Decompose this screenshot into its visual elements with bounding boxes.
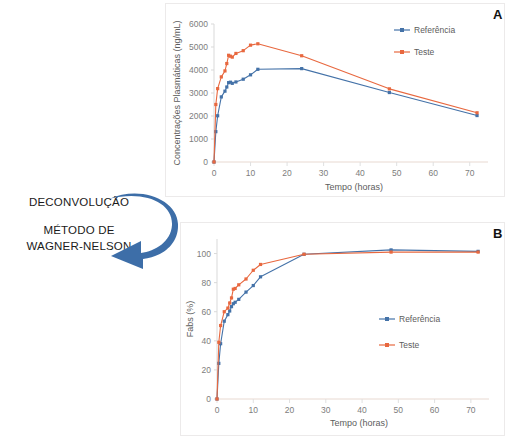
data-point bbox=[225, 62, 228, 65]
legend-label-1: Teste bbox=[399, 340, 420, 350]
legend-marker-1 bbox=[400, 50, 404, 54]
data-point bbox=[230, 296, 233, 299]
x-tick-label: 60 bbox=[428, 168, 438, 178]
data-point bbox=[212, 160, 215, 163]
data-point bbox=[389, 250, 392, 253]
data-point bbox=[219, 324, 222, 327]
legend-marker-0 bbox=[400, 28, 404, 32]
panel-letter-a: A bbox=[493, 7, 502, 22]
data-point bbox=[244, 277, 247, 280]
y-axis-label-a: Concentrações Plasmáticas (ng/mL) bbox=[172, 20, 182, 165]
plot-area-a: 0100020003000400050006000 01020304050607… bbox=[166, 4, 504, 196]
legend-a: ReferênciaTeste bbox=[394, 25, 455, 57]
data-point bbox=[223, 310, 226, 313]
legend-marker-0 bbox=[385, 317, 389, 321]
x-tick-label: 70 bbox=[466, 405, 476, 415]
data-point bbox=[249, 44, 252, 47]
data-point bbox=[234, 287, 237, 290]
data-point bbox=[256, 68, 259, 71]
data-point bbox=[388, 91, 391, 94]
data-point bbox=[226, 306, 229, 309]
y-tick-label: 5000 bbox=[189, 42, 208, 52]
x-axis-label-b: Tempo (horas) bbox=[330, 418, 388, 428]
y-tick-label: 20 bbox=[202, 365, 212, 375]
x-tick-label: 40 bbox=[355, 168, 365, 178]
legend-label-1: Teste bbox=[414, 47, 435, 57]
data-point bbox=[234, 52, 237, 55]
series-line-1 bbox=[214, 44, 477, 162]
data-point bbox=[477, 250, 480, 253]
y-tick-label: 40 bbox=[202, 336, 212, 346]
data-point bbox=[242, 78, 245, 81]
data-point bbox=[475, 111, 478, 114]
series-line-1 bbox=[217, 252, 478, 399]
data-point bbox=[259, 275, 262, 278]
x-tick-label: 10 bbox=[246, 168, 256, 178]
y-tick-label: 0 bbox=[206, 394, 211, 404]
y-axis-label-b: Fabs (%) bbox=[185, 301, 195, 338]
data-point bbox=[300, 54, 303, 57]
y-tick-label: 2000 bbox=[189, 111, 208, 121]
x-tick-label: 0 bbox=[215, 405, 220, 415]
x-tick-label: 50 bbox=[392, 168, 402, 178]
y-tick-label: 60 bbox=[202, 307, 212, 317]
data-point bbox=[226, 313, 229, 316]
data-point bbox=[230, 305, 233, 308]
x-tick-group-b: 010203040506070 bbox=[215, 399, 476, 415]
data-point bbox=[244, 290, 247, 293]
data-point bbox=[228, 309, 231, 312]
data-point bbox=[237, 283, 240, 286]
plot-area-b: 020406080100 010203040506070 ReferênciaT… bbox=[181, 223, 504, 435]
data-point bbox=[220, 95, 223, 98]
data-point bbox=[259, 263, 262, 266]
chart-panel-b: 020406080100 010203040506070 ReferênciaT… bbox=[180, 222, 505, 436]
y-tick-label: 80 bbox=[202, 278, 212, 288]
data-point bbox=[302, 253, 305, 256]
data-point bbox=[223, 90, 226, 93]
x-tick-label: 20 bbox=[282, 168, 292, 178]
x-tick-label: 20 bbox=[285, 405, 295, 415]
y-tick-label: 6000 bbox=[189, 19, 208, 29]
legend-marker-1 bbox=[385, 343, 389, 347]
y-tick-label: 1000 bbox=[189, 134, 208, 144]
series-group-b bbox=[215, 248, 479, 400]
y-tick-group-b: 020406080100 bbox=[197, 249, 217, 404]
x-tick-label: 50 bbox=[394, 405, 404, 415]
data-point bbox=[214, 103, 217, 106]
y-tick-label: 100 bbox=[197, 249, 211, 259]
data-point bbox=[231, 56, 234, 59]
series-line-0 bbox=[214, 69, 477, 162]
data-point bbox=[216, 114, 219, 117]
y-tick-label: 0 bbox=[203, 157, 208, 167]
data-point bbox=[225, 85, 228, 88]
x-tick-label: 60 bbox=[430, 405, 440, 415]
y-tick-label: 3000 bbox=[189, 88, 208, 98]
legend-label-0: Referência bbox=[399, 314, 440, 324]
data-point bbox=[223, 320, 226, 323]
data-point bbox=[231, 82, 234, 85]
x-tick-label: 70 bbox=[465, 168, 475, 178]
data-point bbox=[215, 397, 218, 400]
panel-letter-b: B bbox=[493, 226, 502, 241]
legend-label-0: Referência bbox=[414, 25, 455, 35]
series-line-0 bbox=[217, 250, 478, 399]
y-tick-group-a: 0100020003000400050006000 bbox=[189, 19, 214, 167]
data-point bbox=[228, 301, 231, 304]
x-tick-label: 30 bbox=[319, 168, 329, 178]
curved-arrow-icon bbox=[103, 193, 179, 271]
data-point bbox=[300, 67, 303, 70]
y-tick-label: 4000 bbox=[189, 65, 208, 75]
x-tick-group-a: 010203040506070 bbox=[212, 162, 475, 178]
x-tick-label: 30 bbox=[321, 405, 331, 415]
data-point bbox=[216, 87, 219, 90]
data-point bbox=[234, 301, 237, 304]
data-point bbox=[249, 73, 252, 76]
data-point bbox=[252, 284, 255, 287]
screenshot-canvas: DECONVOLUÇÃO MÉTODO DE WAGNER-NELSON 010… bbox=[0, 0, 517, 438]
data-point bbox=[220, 75, 223, 78]
chart-panel-a: 0100020003000400050006000 01020304050607… bbox=[165, 3, 505, 197]
data-point bbox=[388, 87, 391, 90]
data-point bbox=[217, 341, 220, 344]
legend-b: ReferênciaTeste bbox=[379, 314, 440, 350]
data-point bbox=[234, 80, 237, 83]
